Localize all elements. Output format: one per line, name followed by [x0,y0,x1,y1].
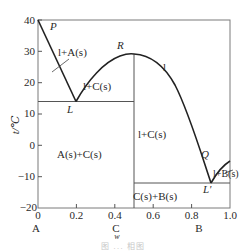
x-tick-0-8: 0.8 [185,209,199,221]
region-C-B-label: C(s)+B(s) [133,190,177,203]
region-l-B-label: l+B(s) [213,168,239,180]
y-tick-20: 20 [24,76,36,88]
phase-diagram-figure: 40 30 20 10 0 −10 −20 0 0.2 0.4 0.6 0.8 … [0,0,246,252]
region-l-label: l [163,61,166,73]
component-B: B [195,222,202,234]
y-tick-40: 40 [24,14,36,26]
x-tick-0: 0 [35,209,41,221]
figure-caption: 图 ... 相图 [0,240,246,251]
y-ticks [38,20,42,177]
point-Q-label: Q [201,148,209,160]
y-tick-10: 10 [24,107,36,119]
x-tick-0-2: 0.2 [70,209,84,221]
region-l-C-lower-label: l+C(s) [138,128,167,141]
liquidus-P-L [38,20,76,102]
y-tick-0: 0 [30,139,36,151]
point-P-label: P [49,20,57,32]
point-L-prime-label: L' [202,183,212,195]
region-A-C-label: A(s)+C(s) [57,148,102,161]
x-tick-labels: 0 0.2 0.4 0.6 0.8 1.0 [35,209,237,221]
region-l-A-label: l+A(s) [58,46,87,59]
y-tick-30: 30 [24,45,36,57]
x-tick-1-0: 1.0 [223,209,237,221]
component-A: A [32,222,40,234]
region-labels: l+A(s) l+C(s) l l+C(s) A(s)+C(s) C(s)+B(… [57,46,239,203]
point-L-label: L [66,103,73,115]
phase-diagram-svg: 40 30 20 10 0 −10 −20 0 0.2 0.4 0.6 0.8 … [0,0,246,252]
y-tick-labels: 40 30 20 10 0 −10 −20 [18,14,38,213]
y-tick-minus10: −10 [18,170,36,182]
x-tick-0-6: 0.6 [146,209,160,221]
x-tick-0-4: 0.4 [108,209,122,221]
point-R-label: R [116,39,124,51]
region-l-C-upper-label: l+C(s) [83,80,112,93]
y-axis-label: t/℃ [9,115,21,134]
liquidus-R-L2 [134,54,211,183]
liquidus-L-R [76,54,134,102]
